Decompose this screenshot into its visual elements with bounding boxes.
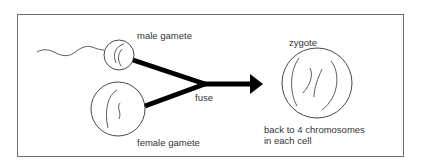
sperm-tail-icon: [37, 46, 104, 55]
zygote-icon: [282, 48, 352, 118]
zygote-note-line2: in each cell: [264, 135, 312, 146]
fertilisation-diagram: [0, 0, 423, 167]
zygote-note-line1: back to 4 chromosomes: [264, 124, 365, 135]
male-gamete-icon: [104, 40, 134, 70]
male-gamete-label: male gamete: [137, 30, 192, 41]
arrow-head-icon: [250, 74, 263, 94]
zygote-label: zygote: [289, 37, 317, 48]
female-gamete-label: female gamete: [137, 137, 200, 148]
female-gamete-icon: [91, 82, 145, 136]
fuse-label: fuse: [195, 92, 213, 103]
